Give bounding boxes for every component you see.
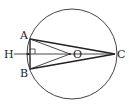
label-c: C xyxy=(117,48,125,61)
label-h: H xyxy=(4,48,14,61)
label-o: O xyxy=(73,48,82,61)
label-b: B xyxy=(20,67,28,80)
point-h xyxy=(27,53,29,55)
point-o xyxy=(69,53,71,55)
label-a: A xyxy=(19,29,29,42)
segment-ao xyxy=(30,39,70,54)
right-angle-marker xyxy=(30,49,35,54)
geometry-diagram: A B C O H xyxy=(0,0,129,105)
segment-bo xyxy=(30,54,70,69)
